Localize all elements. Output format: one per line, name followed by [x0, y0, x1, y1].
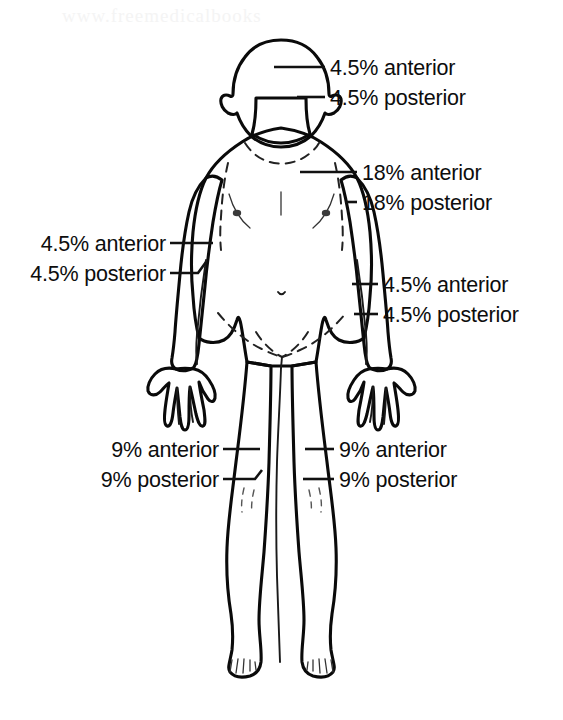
diagram-canvas: www.freemedicalbooks [0, 0, 563, 720]
left-leg-anterior-label: 9% anterior [111, 438, 219, 462]
right-leg-posterior-label: 9% posterior [339, 468, 457, 492]
crotch-line [281, 357, 282, 368]
trunk-posterior-label: 18% posterior [362, 191, 492, 215]
right-arm-posterior-label: 4.5% posterior [383, 303, 519, 327]
left-leg-posterior-label: 9% posterior [101, 468, 219, 492]
trunk-anterior-label: 18% anterior [362, 161, 482, 185]
scan-watermark-text: www.freemedicalbooks [62, 5, 262, 26]
right-arm-anterior-label: 4.5% anterior [383, 273, 508, 297]
left-nipple [233, 210, 241, 216]
left-arm-posterior-label: 4.5% posterior [30, 262, 166, 286]
right-nipple [322, 210, 330, 216]
right-leg-anterior-label: 9% anterior [339, 438, 447, 462]
head-posterior-label: 4.5% posterior [330, 86, 466, 110]
body-surface-area-diagram: www.freemedicalbooks [0, 0, 563, 720]
left-arm-anterior-label: 4.5% anterior [41, 232, 166, 256]
head-anterior-label: 4.5% anterior [330, 56, 455, 80]
